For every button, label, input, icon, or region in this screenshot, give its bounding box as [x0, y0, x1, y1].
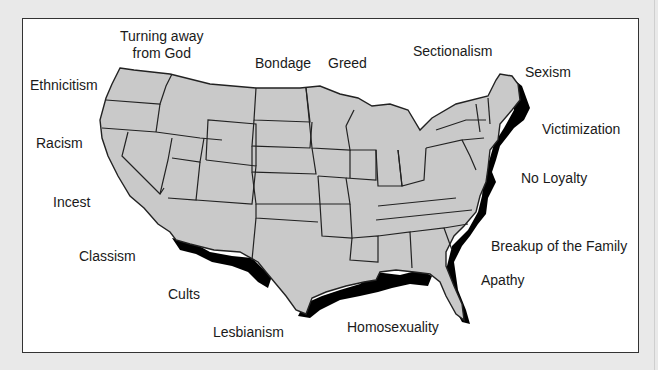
label-breakup-of-the-family: Breakup of the Family [491, 238, 627, 255]
label-classism: Classism [79, 248, 136, 265]
label-ethnicitism: Ethnicitism [30, 77, 98, 94]
label-homosexuality: Homosexuality [347, 319, 439, 336]
label-lesbianism: Lesbianism [213, 324, 284, 341]
label-racism: Racism [36, 135, 83, 152]
label-turning-away-from-god: Turning away from God [120, 28, 204, 62]
label-greed: Greed [328, 55, 367, 72]
label-cults: Cults [168, 286, 200, 303]
us-landmass [100, 68, 520, 320]
label-incest: Incest [53, 194, 90, 211]
label-line: Turning away [120, 28, 204, 45]
label-no-loyalty: No Loyalty [521, 170, 587, 187]
label-bondage: Bondage [255, 55, 311, 72]
label-apathy: Apathy [481, 272, 525, 289]
label-victimization: Victimization [542, 121, 620, 138]
label-sexism: Sexism [525, 64, 571, 81]
label-line: from God [120, 45, 204, 62]
label-sectionalism: Sectionalism [413, 43, 492, 60]
